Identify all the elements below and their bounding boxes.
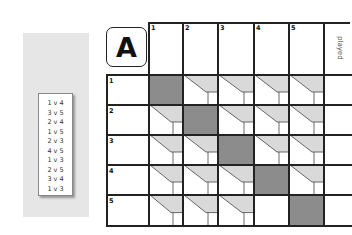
self-match-cell — [182, 104, 217, 134]
grid-line — [106, 225, 352, 227]
fixture-item: 3 v 5 — [39, 109, 72, 119]
fixtures-card: 1 v 4 3 v 5 2 v 4 1 v 5 2 v 3 4 v 5 1 v … — [38, 93, 73, 196]
column-header: 3 — [220, 24, 225, 32]
played-column-header: played — [330, 24, 350, 72]
column-header: 4 — [256, 24, 261, 32]
result-cell — [182, 74, 217, 104]
column-header: 2 — [185, 24, 190, 32]
self-match-cell — [253, 164, 288, 194]
row-header: 5 — [109, 197, 114, 205]
row-header: 4 — [109, 167, 114, 175]
grid-line — [288, 22, 290, 226]
column-header: 1 — [151, 24, 156, 32]
fixture-item: 2 v 5 — [39, 166, 72, 176]
result-cell — [217, 104, 253, 134]
self-match-cell — [288, 194, 323, 225]
column-header: 5 — [291, 24, 296, 32]
result-cell — [148, 164, 182, 194]
grid-line — [106, 104, 352, 106]
grid-line — [148, 22, 150, 226]
result-cell — [148, 104, 182, 134]
row-header: 3 — [109, 137, 114, 145]
group-letter-badge: A — [106, 27, 147, 67]
self-match-cell — [217, 134, 253, 164]
empty-result-cell — [253, 194, 288, 225]
grid-line — [106, 194, 352, 196]
result-cell — [217, 194, 253, 225]
result-cell — [253, 104, 288, 134]
grid-line — [106, 74, 108, 226]
grid-line — [106, 164, 352, 166]
result-cell — [217, 164, 253, 194]
row-header: 1 — [109, 77, 114, 85]
grid-line — [106, 74, 352, 76]
fixture-item: 2 v 3 — [39, 137, 72, 147]
grid-line — [323, 22, 325, 226]
result-cell — [217, 74, 253, 104]
fixture-item: 4 v 5 — [39, 147, 72, 157]
fixture-item: 1 v 5 — [39, 128, 72, 138]
result-cell — [288, 104, 323, 134]
result-cell — [288, 164, 323, 194]
result-cell — [253, 134, 288, 164]
result-cell — [182, 164, 217, 194]
grid-line — [217, 22, 219, 226]
result-cell — [253, 74, 288, 104]
grid-line — [253, 22, 255, 226]
fixture-item: 3 v 4 — [39, 175, 72, 185]
result-cell — [288, 74, 323, 104]
self-match-cell — [148, 74, 182, 104]
fixture-item: 1 v 3 — [39, 156, 72, 166]
fixture-item: 1 v 4 — [39, 99, 72, 109]
result-cell — [182, 134, 217, 164]
result-cell — [148, 194, 182, 225]
fixture-item: 1 v 3 — [39, 185, 72, 195]
result-cell — [182, 194, 217, 225]
grid-line — [182, 22, 184, 226]
fixture-item: 2 v 4 — [39, 118, 72, 128]
row-header: 2 — [109, 107, 114, 115]
grid-line — [106, 134, 352, 136]
result-cell — [288, 134, 323, 164]
grid-line — [148, 22, 350, 24]
result-cell — [148, 134, 182, 164]
